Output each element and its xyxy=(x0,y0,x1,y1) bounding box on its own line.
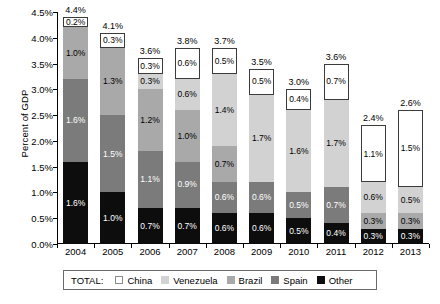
bar-segment-label: 0.3% xyxy=(364,217,383,226)
bar-segment-brazil[interactable]: 0.3% xyxy=(398,213,423,228)
bar-stack[interactable]: 3.0%0.4%1.6%0.5%0.5% xyxy=(286,89,311,244)
bar-stack[interactable]: 4.4%0.2%1.0%1.6%1.6% xyxy=(63,17,88,244)
y-tick-label: 0.5% xyxy=(31,213,53,224)
bar-segment-label: 1.7% xyxy=(326,139,345,148)
legend-item-brazil[interactable]: Brazil xyxy=(227,275,263,286)
bar-segment-venezuela[interactable]: 1.7% xyxy=(249,95,274,183)
bar-segment-label: 0.4% xyxy=(289,95,308,104)
bar-segment-spain[interactable]: 1.6% xyxy=(63,79,88,161)
bar-total-label: 3.7% xyxy=(214,36,235,46)
y-tick-label: 2.5% xyxy=(31,110,53,121)
bar-segment-label: 0.3% xyxy=(401,217,420,226)
bar-segment-label: 0.6% xyxy=(178,59,197,68)
bar-segment-china[interactable]: 1.1% xyxy=(361,125,386,182)
bar-stack[interactable]: 3.5%0.5%1.7%0.6%0.6% xyxy=(249,69,274,244)
bar-segment-spain[interactable]: 0.5% xyxy=(286,192,311,218)
bar-segment-other[interactable]: 0.5% xyxy=(286,218,311,244)
bar-segment-label: 0.3% xyxy=(401,232,420,241)
bar-segment-other[interactable]: 0.6% xyxy=(212,213,237,244)
bar-stack[interactable]: 3.6%0.3%0.3%1.2%1.1%0.7% xyxy=(138,58,163,244)
bar-stack[interactable]: 2.4%1.1%0.6%0.3%0.3% xyxy=(361,125,386,244)
bar-stack[interactable]: 3.6%0.7%1.7%0.7%0.4% xyxy=(324,64,349,244)
bar-segment-other[interactable]: 1.0% xyxy=(100,192,125,244)
bar-segment-label: 1.1% xyxy=(364,150,383,159)
legend-item-label: Venezuela xyxy=(173,275,217,286)
legend-item-china[interactable]: China xyxy=(115,275,152,286)
bar-segment-brazil[interactable]: 1.0% xyxy=(175,110,200,162)
bar-segment-venezuela[interactable]: 0.6% xyxy=(175,79,200,110)
x-tick-label: 2012 xyxy=(355,246,392,257)
bar-segment-china[interactable]: 0.2% xyxy=(63,17,88,27)
bar-segment-other[interactable]: 0.4% xyxy=(324,223,349,244)
bar-segment-other[interactable]: 0.6% xyxy=(249,213,274,244)
bar-segment-brazil[interactable]: 1.2% xyxy=(138,89,163,151)
bar-segment-brazil[interactable]: 0.7% xyxy=(212,146,237,182)
bar-segment-china[interactable]: 0.6% xyxy=(175,48,200,79)
bar-segment-brazil[interactable]: 1.3% xyxy=(100,48,125,115)
legend-item-venezuela[interactable]: Venezuela xyxy=(161,275,217,286)
bar-segment-spain[interactable]: 1.1% xyxy=(138,151,163,208)
bar-column: 3.8%0.6%0.6%1.0%0.9%0.7% xyxy=(169,12,206,244)
y-tick-label: 2.0% xyxy=(31,135,53,146)
bar-segment-brazil[interactable]: 1.0% xyxy=(63,27,88,79)
y-tick-label: 0.0% xyxy=(31,239,53,250)
bar-segment-china[interactable]: 0.5% xyxy=(249,69,274,95)
bar-stack[interactable]: 3.7%0.5%1.4%0.7%0.6%0.6% xyxy=(212,48,237,244)
bar-segment-china[interactable]: 0.3% xyxy=(100,33,125,48)
bar-segment-china[interactable]: 0.3% xyxy=(138,58,163,73)
bar-total-label: 4.1% xyxy=(103,21,124,31)
bar-segment-venezuela[interactable]: 0.3% xyxy=(138,74,163,89)
bar-stack[interactable]: 4.1%0.3%1.3%1.5%1.0% xyxy=(100,33,125,244)
legend-item-spain[interactable]: Spain xyxy=(271,275,307,286)
bar-segment-spain[interactable]: 0.6% xyxy=(212,182,237,213)
bar-column: 4.1%0.3%1.3%1.5%1.0% xyxy=(94,12,131,244)
bar-stack[interactable]: 2.6%1.5%0.5%0.3%0.3% xyxy=(398,110,423,244)
bar-segment-spain[interactable]: 0.7% xyxy=(324,187,349,223)
legend-swatch-venezuela-icon xyxy=(161,276,169,284)
bar-segment-label: 1.0% xyxy=(103,214,122,223)
bar-segment-other[interactable]: 0.7% xyxy=(138,208,163,244)
bar-segment-china[interactable]: 0.7% xyxy=(324,64,349,100)
bar-segment-venezuela[interactable]: 0.5% xyxy=(398,187,423,213)
bar-column: 3.0%0.4%1.6%0.5%0.5% xyxy=(280,12,317,244)
x-tick-label: 2009 xyxy=(243,246,280,257)
bar-total-label: 3.8% xyxy=(177,36,198,46)
bar-column: 3.5%0.5%1.7%0.6%0.6% xyxy=(243,12,280,244)
x-tick-label: 2007 xyxy=(169,246,206,257)
legend-item-other[interactable]: Other xyxy=(317,275,353,286)
bar-segment-other[interactable]: 0.3% xyxy=(398,229,423,244)
bar-segment-spain[interactable]: 0.9% xyxy=(175,162,200,208)
bar-segment-other[interactable]: 0.7% xyxy=(175,208,200,244)
bar-segment-spain[interactable]: 0.6% xyxy=(249,182,274,213)
bar-segment-venezuela[interactable]: 1.7% xyxy=(324,100,349,188)
bar-segment-other[interactable]: 0.3% xyxy=(361,229,386,244)
legend-swatch-brazil-icon xyxy=(227,276,235,284)
bar-column: 2.6%1.5%0.5%0.3%0.3% xyxy=(392,12,429,244)
bar-segment-venezuela[interactable]: 1.4% xyxy=(212,74,237,146)
bar-series-container: 4.4%0.2%1.0%1.6%1.6%4.1%0.3%1.3%1.5%1.0%… xyxy=(57,12,429,244)
bar-total-label: 3.5% xyxy=(251,57,272,67)
y-axis-title: Percent of GDP xyxy=(19,54,30,194)
bar-segment-label: 1.2% xyxy=(140,116,159,125)
bar-segment-venezuela[interactable]: 0.6% xyxy=(361,182,386,213)
y-tick-label: 4.0% xyxy=(31,32,53,43)
bar-stack[interactable]: 3.8%0.6%0.6%1.0%0.9%0.7% xyxy=(175,48,200,244)
bar-segment-label: 0.4% xyxy=(326,229,345,238)
bar-segment-china[interactable]: 0.4% xyxy=(286,89,311,110)
bar-segment-label: 0.6% xyxy=(252,193,271,202)
bar-segment-label: 0.5% xyxy=(289,227,308,236)
bar-segment-venezuela[interactable]: 1.6% xyxy=(286,110,311,192)
stacked-bar-chart: Percent of GDP 0.0%0.5%1.0%1.5%2.0%2.5%3… xyxy=(0,0,440,304)
bar-segment-spain[interactable]: 1.5% xyxy=(100,115,125,192)
bar-segment-label: 1.0% xyxy=(178,132,197,141)
x-tick-label: 2006 xyxy=(131,246,168,257)
bar-segment-china[interactable]: 1.5% xyxy=(398,110,423,187)
bar-segment-other[interactable]: 1.6% xyxy=(63,162,88,244)
bar-segment-brazil[interactable]: 0.3% xyxy=(361,213,386,228)
bar-segment-label: 0.5% xyxy=(401,196,420,205)
bar-total-label: 3.0% xyxy=(289,77,310,87)
bar-total-label: 2.6% xyxy=(400,98,421,108)
bar-segment-china[interactable]: 0.5% xyxy=(212,48,237,74)
bar-segment-label: 0.6% xyxy=(364,193,383,202)
x-axis-labels: 2004200520062007200820092010201120122013 xyxy=(57,246,429,257)
